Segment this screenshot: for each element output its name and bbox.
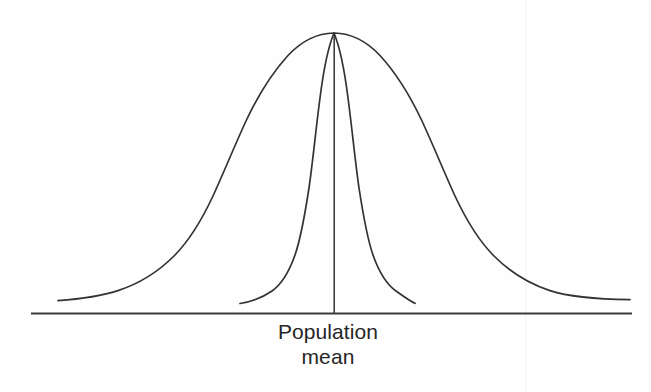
distribution-plot-svg (0, 0, 651, 392)
normal-distribution-figure: Population mean (0, 0, 651, 392)
narrow-distribution-curve (240, 33, 415, 304)
